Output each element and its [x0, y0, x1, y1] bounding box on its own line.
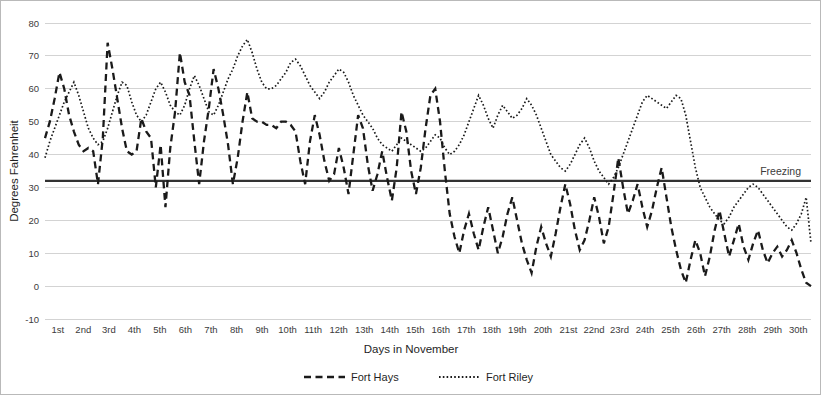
freezing-annotation-label: Freezing: [760, 165, 801, 177]
chart-legend: Fort Hays Fort Riley: [304, 371, 534, 383]
x-axis-tick-label: 9th: [255, 324, 268, 335]
x-axis-tick-label: 3rd: [102, 324, 116, 335]
x-axis-tick-label: 20th: [534, 324, 553, 335]
x-axis-tick-label: 26th: [687, 324, 706, 335]
x-axis-tick-label: 6th: [179, 324, 192, 335]
y-axis-tick-label: 80: [28, 18, 39, 29]
x-axis-tick-label: 7th: [204, 324, 217, 335]
y-axis-tick-label: 40: [28, 149, 39, 160]
x-axis-tick-label: 16th: [432, 324, 451, 335]
series-line-fort-hays: [45, 43, 811, 286]
x-axis-tick-label: 30th: [789, 324, 808, 335]
x-axis-tick-label: 21st: [559, 324, 577, 335]
x-axis-tick-label: 18th: [483, 324, 502, 335]
x-axis-tick-label: 28th: [738, 324, 757, 335]
x-axis-tick-label: 23rd: [610, 324, 629, 335]
y-axis-tick-label: 0: [34, 281, 39, 292]
x-axis-tick-label: 19th: [508, 324, 527, 335]
x-axis-title: Days in November: [364, 343, 459, 355]
legend-label-fort-hays: Fort Hays: [351, 371, 399, 383]
x-axis-tick-label: 22nd: [583, 324, 604, 335]
y-axis-tick-label: 50: [28, 116, 39, 127]
x-axis-tick-label: 15th: [406, 324, 425, 335]
x-axis-tick-label: 27th: [712, 324, 731, 335]
x-axis-tick-label: 25th: [661, 324, 680, 335]
legend-label-fort-riley: Fort Riley: [486, 371, 534, 383]
x-axis-tick-label: 29th: [763, 324, 782, 335]
x-axis-tick-label: 14th: [380, 324, 399, 335]
x-axis-tick-label: 2nd: [75, 324, 91, 335]
x-axis-tick-label: 4th: [128, 324, 141, 335]
x-axis-tick-label: 11th: [304, 324, 322, 335]
y-axis-tick-label: 30: [28, 182, 39, 193]
x-axis-tick-label: 5th: [153, 324, 166, 335]
y-axis-tick-label: 10: [28, 248, 39, 259]
y-axis-tick-label: 60: [28, 83, 39, 94]
y-axis-tick-label: -10: [25, 314, 39, 325]
y-axis-tick-label: 20: [28, 215, 39, 226]
x-axis-tick-label: 1st: [51, 324, 64, 335]
series-line-fort-riley: [45, 39, 811, 243]
x-axis-tick-label: 24th: [636, 324, 655, 335]
x-axis-tick-label: 10th: [278, 324, 297, 335]
x-axis-tick-label: 17th: [457, 324, 476, 335]
chart-container: -1001020304050607080 1st2nd3rd4th5th6th7…: [0, 0, 821, 395]
x-axis-tick-label: 8th: [230, 324, 243, 335]
y-axis-tick-labels: -1001020304050607080: [25, 18, 39, 325]
x-axis-tick-label: 13th: [355, 324, 374, 335]
x-axis-tick-labels: 1st2nd3rd4th5th6th7th8th9th10th11th12th1…: [51, 324, 807, 335]
y-axis-tick-label: 70: [28, 50, 39, 61]
y-axis-title: Degrees Fahrenheit: [8, 119, 20, 221]
x-axis-tick-label: 12th: [329, 324, 348, 335]
line-chart: -1001020304050607080 1st2nd3rd4th5th6th7…: [1, 1, 821, 395]
